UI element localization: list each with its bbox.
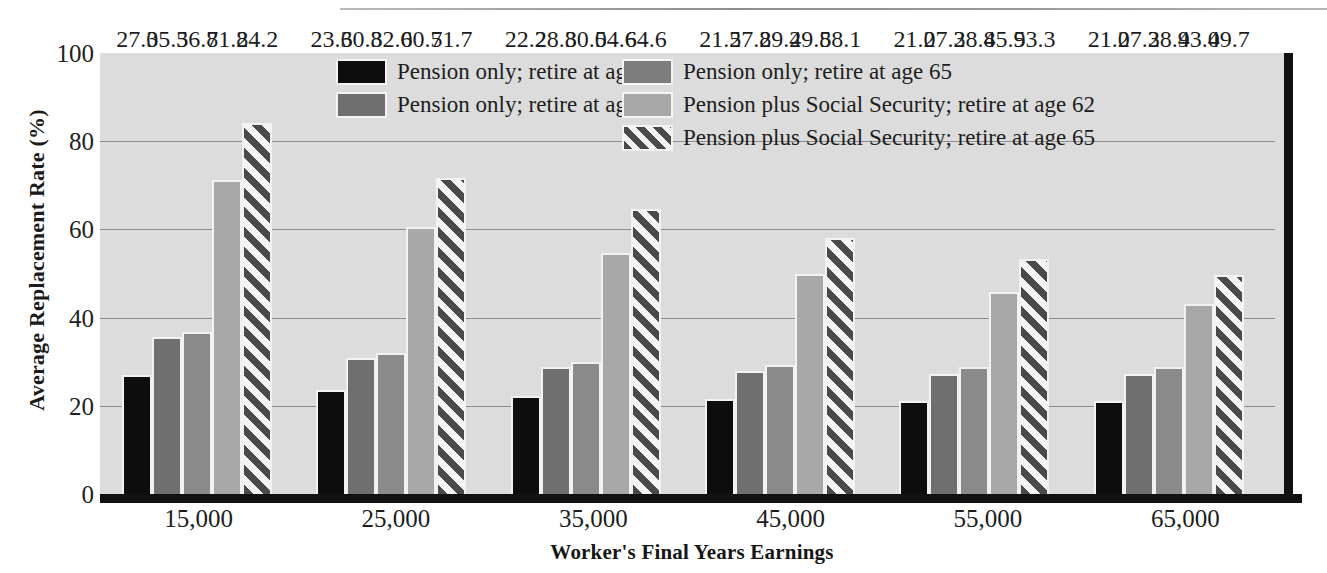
bar-group-bars: 27.035.536.871.284.2 <box>100 53 294 494</box>
bar-column: 27.0 <box>122 53 152 494</box>
legend-label: Pension plus Social Security; retire at … <box>683 126 1095 150</box>
bar-value-label: 49.7 <box>1208 27 1250 51</box>
bar[interactable]: 45.9 <box>989 292 1019 494</box>
bar[interactable]: 29.2 <box>765 365 795 494</box>
bar[interactable]: 53.3 <box>1019 259 1049 494</box>
bar-column: 21.0 <box>1094 53 1124 494</box>
bar[interactable]: 64.6 <box>631 209 661 494</box>
bar[interactable]: 30.0 <box>571 362 601 494</box>
bar-group: 27.035.536.871.284.2 <box>100 53 294 494</box>
bar[interactable]: 84.2 <box>242 123 272 494</box>
series-4-swatch <box>622 125 673 151</box>
bar[interactable]: 21.5 <box>705 399 735 494</box>
bar[interactable]: 71.7 <box>436 178 466 494</box>
legend-item[interactable]: Pension only; retire at age 62 <box>336 90 622 120</box>
legend-item[interactable]: Pension only; retire at age 65 <box>622 57 1095 87</box>
y-tick-label: 0 <box>40 482 94 507</box>
bar[interactable]: 35.5 <box>152 337 182 494</box>
legend-item[interactable]: Pension plus Social Security; retire at … <box>622 123 1095 153</box>
y-axis-ticks: 020406080100 <box>34 53 94 494</box>
bar-value-label: 53.3 <box>1013 27 1055 51</box>
y-tick-label: 80 <box>40 129 94 154</box>
y-tick-label: 60 <box>40 217 94 242</box>
bar[interactable]: 58.1 <box>825 238 855 494</box>
x-tick-label: 55,000 <box>889 505 1086 533</box>
bar[interactable]: 21.0 <box>899 401 929 494</box>
bar[interactable]: 49.7 <box>1214 275 1244 494</box>
bar-column: 84.2 <box>242 53 272 494</box>
series-1-swatch <box>336 92 387 118</box>
x-tick-label: 35,000 <box>495 505 692 533</box>
bar-column: 35.5 <box>152 53 182 494</box>
bar[interactable]: 71.2 <box>212 180 242 494</box>
bar-group-bars: 21.027.328.943.049.7 <box>1072 53 1266 494</box>
bar-column: 28.9 <box>1154 53 1184 494</box>
bar[interactable]: 27.3 <box>929 374 959 494</box>
chart-legend: Pension only; retire at age 55Pension on… <box>336 57 1095 153</box>
bar[interactable]: 28.8 <box>541 367 571 494</box>
bar[interactable]: 32.0 <box>376 353 406 494</box>
bar[interactable]: 27.0 <box>122 375 152 494</box>
bar[interactable]: 28.8 <box>959 367 989 494</box>
x-tick-label: 65,000 <box>1087 505 1284 533</box>
bar[interactable]: 28.9 <box>1154 367 1184 494</box>
bar-column: 71.2 <box>212 53 242 494</box>
bar[interactable]: 54.6 <box>601 253 631 494</box>
legend-column: Pension only; retire at age 65Pension pl… <box>622 57 1095 153</box>
bar[interactable]: 30.8 <box>346 358 376 494</box>
x-axis-tick-labels: 15,00025,00035,00045,00055,00065,000 <box>100 505 1284 533</box>
chart-figure: Average Replacement Rate (%) 02040608010… <box>0 0 1327 573</box>
bar-column: 49.7 <box>1214 53 1244 494</box>
bar-value-label: 64.6 <box>625 27 667 51</box>
series-3-swatch <box>622 92 673 118</box>
bar[interactable]: 21.0 <box>1094 401 1124 494</box>
bar[interactable]: 22.2 <box>511 396 541 494</box>
y-tick-label: 20 <box>40 393 94 418</box>
bar[interactable]: 27.8 <box>735 371 765 494</box>
y-tick-label: 100 <box>40 41 94 66</box>
series-2-swatch <box>622 59 673 85</box>
x-tick-label: 45,000 <box>692 505 889 533</box>
bar-column: 27.3 <box>1124 53 1154 494</box>
x-tick-label: 25,000 <box>297 505 494 533</box>
bar-column: 43.0 <box>1184 53 1214 494</box>
legend-label: Pension plus Social Security; retire at … <box>683 93 1095 117</box>
y-tick-label: 40 <box>40 305 94 330</box>
bar[interactable]: 60.5 <box>406 227 436 494</box>
x-tick-label: 15,000 <box>100 505 297 533</box>
series-0-swatch <box>336 59 387 85</box>
bar-value-label: 58.1 <box>819 27 861 51</box>
legend-item[interactable]: Pension plus Social Security; retire at … <box>622 90 1095 120</box>
bar[interactable]: 43.0 <box>1184 304 1214 494</box>
bar[interactable]: 23.6 <box>316 390 346 494</box>
legend-column: Pension only; retire at age 55Pension on… <box>336 57 622 153</box>
bar-column: 36.8 <box>182 53 212 494</box>
bar-group: 21.027.328.943.049.7 <box>1072 53 1266 494</box>
legend-item[interactable]: Pension only; retire at age 55 <box>336 57 622 87</box>
legend-label: Pension only; retire at age 65 <box>683 60 952 84</box>
bar-value-label: 71.7 <box>430 27 472 51</box>
bar[interactable]: 27.3 <box>1124 374 1154 494</box>
bar-value-label: 84.2 <box>236 27 278 51</box>
bar[interactable]: 49.8 <box>795 274 825 494</box>
x-axis-line <box>100 494 1302 503</box>
x-axis-title: Worker's Final Years Earnings <box>100 540 1284 565</box>
bar[interactable]: 36.8 <box>182 332 212 494</box>
